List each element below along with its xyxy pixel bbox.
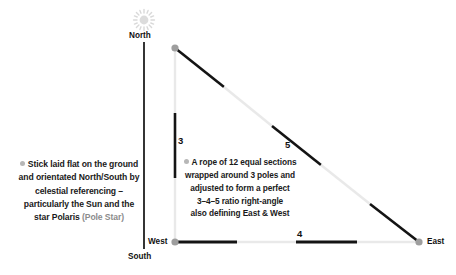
side-label-vertical: 3 <box>178 135 183 146</box>
left-annotation: Stick laid flat on the ground and orient… <box>4 158 154 225</box>
compass-label-east: East <box>427 237 444 246</box>
triangle-diagram <box>0 0 456 275</box>
diagram-canvas: North South West East 3 5 4 Stick laid f… <box>0 0 456 275</box>
center-annotation-line-5: also defining East & West <box>170 207 310 220</box>
rope-segment-d2 <box>224 87 272 126</box>
pole-marker-west-corner <box>171 238 178 245</box>
sun-icon <box>132 8 156 32</box>
center-annotation-line-1: A rope of 12 equal sections <box>170 156 310 169</box>
center-annotation-text-1: A rope of 12 equal sections <box>192 157 297 167</box>
bullet-dot-icon <box>184 159 189 164</box>
bullet-dot-icon <box>20 161 25 166</box>
left-annotation-text-5a: star Polaris <box>34 212 80 222</box>
left-annotation-line-1: Stick laid flat on the ground <box>4 158 154 171</box>
center-annotation-line-4: 3–4–5 ratio right-angle <box>170 195 310 208</box>
rope-segment-d1 <box>175 48 224 87</box>
compass-label-west: West <box>148 237 167 246</box>
side-label-horizontal: 4 <box>297 228 302 239</box>
rope-segment-d4 <box>321 165 370 204</box>
left-annotation-line-2: and orientated North/South by <box>4 171 154 184</box>
left-annotation-line-4: particularly the Sun and the <box>4 198 154 211</box>
left-annotation-line-3: celestial referencing – <box>4 185 154 198</box>
compass-label-south: South <box>128 252 151 261</box>
pole-marker-east <box>415 238 422 245</box>
compass-label-north: North <box>129 31 151 40</box>
center-annotation: A rope of 12 equal sections wrapped arou… <box>170 156 310 220</box>
side-label-hypotenuse: 5 <box>285 139 290 150</box>
pole-marker-apex <box>171 44 178 51</box>
left-annotation-text-1: Stick laid flat on the ground <box>28 159 138 169</box>
center-annotation-line-2: wrapped around 3 poles and <box>170 169 310 182</box>
left-annotation-line-5: star Polaris (Pole Star) <box>4 211 154 224</box>
center-annotation-line-3: adjusted to form a perfect <box>170 182 310 195</box>
left-annotation-text-5b: (Pole Star) <box>82 212 124 222</box>
rope-segment-d5 <box>370 204 419 242</box>
